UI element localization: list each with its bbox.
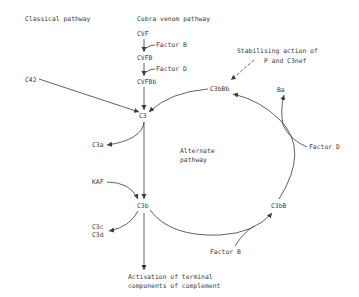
- node-c3c: C3c: [92, 223, 104, 231]
- arrow-c3b-to-c3bb: [150, 210, 272, 235]
- arrow-c3bbb-to-c3: [149, 89, 208, 112]
- arrow-kaf-to-c3b: [107, 182, 138, 199]
- complement-pathway-diagram: Classical pathway Cobra venom pathway CV…: [0, 0, 359, 297]
- factor-b-top-connector: [146, 45, 155, 48]
- node-ba: Ba: [277, 86, 285, 94]
- factor-d-right-label: Factor D: [309, 143, 340, 151]
- alternate-line2: pathway: [180, 156, 207, 164]
- node-kaf: KAF: [92, 178, 104, 186]
- stabilising-arrow: [231, 60, 254, 80]
- arrow-c3bb-to-c3bbb: [233, 94, 295, 199]
- factor-d-top-connector: [146, 69, 155, 72]
- stabilising-line1: Stabilising action of: [237, 47, 318, 55]
- arrow-c42-to-c3: [39, 79, 139, 112]
- node-cvfbb: CVFBb: [137, 78, 156, 86]
- node-c3b: C3b: [137, 202, 149, 210]
- node-c42: C42: [25, 76, 37, 84]
- stabilising-line2: P and C3nef: [264, 57, 306, 65]
- activation-line1: Activation of terminal: [128, 273, 213, 281]
- factor-d-top-label: Factor D: [156, 65, 187, 73]
- factor-b-bottom-label: Factor B: [210, 248, 241, 256]
- factor-b-bottom-connector: [235, 226, 254, 246]
- node-c3: C3: [139, 112, 147, 120]
- arrow-c3b-to-c3c-c3d: [109, 211, 138, 231]
- node-c3a: C3a: [92, 141, 104, 149]
- node-cvfb: CVFB: [137, 54, 153, 62]
- alternate-line1: Alternate: [180, 147, 215, 155]
- cobra-venom-pathway-heading: Cobra venom pathway: [137, 15, 210, 23]
- node-c3bbb: C3bBb: [210, 85, 229, 93]
- activation-line2: components of complement: [128, 282, 220, 290]
- classical-pathway-heading: Classical pathway: [25, 15, 91, 23]
- arrow-factor-d-to-ba: [282, 95, 307, 147]
- factor-b-top-label: Factor B: [156, 41, 187, 49]
- arrow-c3-to-c3a: [107, 122, 144, 145]
- node-cvf: CVF: [137, 30, 149, 38]
- node-c3d: C3d: [92, 231, 104, 239]
- node-c3bb: C3bB: [271, 202, 287, 210]
